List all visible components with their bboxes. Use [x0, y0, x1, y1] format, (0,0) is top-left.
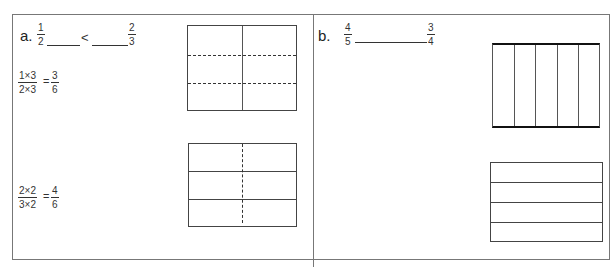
area-model-halves-thirds	[187, 25, 297, 111]
part-a-label: a.	[20, 27, 33, 44]
row-line	[491, 202, 602, 203]
denominator: 2×3	[18, 82, 37, 95]
denominator: 6	[51, 82, 59, 95]
column-line	[514, 45, 515, 126]
equation1-rhs-fraction: 3 6	[51, 70, 59, 95]
denominator: 2	[37, 34, 45, 47]
solid-column-line	[242, 26, 243, 110]
part-b-label: b.	[318, 27, 331, 44]
area-model-fifths	[492, 43, 600, 128]
column-line	[578, 45, 579, 126]
answer-blank-right[interactable]	[92, 45, 128, 46]
denominator: 5	[344, 34, 352, 47]
numerator: 3	[427, 22, 435, 34]
numerator: 4	[344, 22, 352, 34]
equation2-rhs-fraction: 4 6	[51, 185, 59, 210]
denominator: 3×2	[18, 197, 37, 210]
part-b-left-fraction: 4 5	[344, 22, 352, 47]
column-line	[535, 45, 536, 126]
numerator: 4	[51, 185, 59, 197]
denominator: 6	[51, 197, 59, 210]
comparison-symbol: <	[81, 30, 89, 45]
area-model-thirds-halves	[188, 143, 297, 227]
dashed-column-line	[242, 144, 243, 223]
numerator: 1×3	[18, 70, 37, 82]
numerator: 2	[128, 22, 136, 34]
numerator: 3	[51, 70, 59, 82]
part-a-left-fraction: 1 2	[37, 22, 45, 47]
column-divider	[313, 14, 314, 267]
answer-blank-left[interactable]	[47, 45, 80, 46]
denominator: 4	[427, 34, 435, 47]
dashed-row-line	[188, 83, 296, 84]
denominator: 3	[128, 34, 136, 47]
row-line	[491, 182, 602, 183]
numerator: 1	[37, 22, 45, 34]
dashed-row-line	[188, 55, 296, 56]
row-line	[491, 222, 602, 223]
equation1-lhs-fraction: 1×3 2×3	[18, 70, 37, 95]
equals-sign: =	[43, 190, 49, 202]
area-model-fourths	[490, 162, 603, 242]
column-line	[557, 45, 558, 126]
equals-sign: =	[43, 75, 49, 87]
answer-blank[interactable]	[355, 42, 427, 43]
equation2-lhs-fraction: 2×2 3×2	[18, 185, 37, 210]
numerator: 2×2	[18, 185, 37, 197]
part-a-right-fraction: 2 3	[128, 22, 136, 47]
part-b-right-fraction: 3 4	[427, 22, 435, 47]
